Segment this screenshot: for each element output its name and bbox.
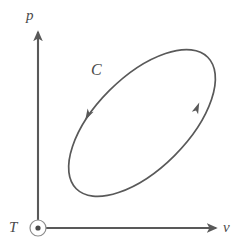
- cycle-right-arrowhead: [192, 101, 203, 114]
- circled-dot-icon: [30, 220, 46, 236]
- pv-diagram-figure: p v T C: [0, 0, 245, 245]
- cycle-ellipse: [44, 25, 241, 222]
- volume-axis-label: v: [223, 220, 230, 235]
- cycle-path-label: C: [91, 62, 102, 78]
- diagram-canvas: [0, 0, 245, 245]
- temperature-axis-label: T: [9, 220, 17, 235]
- pressure-axis-label: p: [26, 8, 34, 23]
